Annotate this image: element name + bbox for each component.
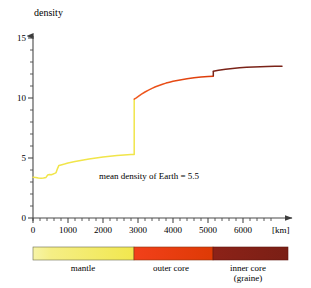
density-profile-chart: density 15 10 5 0 0 1000 2000 3000 4000 … — [0, 0, 311, 288]
x-tick-label-5000: 5000 — [188, 226, 228, 235]
x-axis — [33, 218, 292, 223]
x-axis-major-ticks — [33, 218, 243, 223]
y-tick-label-10: 10 — [10, 94, 26, 103]
x-tick-label-2000: 2000 — [83, 226, 123, 235]
chart-canvas — [0, 0, 311, 288]
curve-inner-core — [213, 66, 282, 71]
legend-label-inner-core: inner core (graine) — [208, 263, 288, 284]
y-tick-label-15: 15 — [10, 34, 26, 43]
y-axis-major-ticks — [28, 38, 33, 218]
mean-density-annotation: mean density of Earth = 5.5 — [99, 172, 199, 181]
legend-label-outer-core: outer core — [133, 263, 209, 273]
x-tick-label-1000: 1000 — [48, 226, 88, 235]
y-axis-title: density — [34, 8, 63, 18]
legend-label-mantle: mantle — [43, 263, 123, 273]
legend-segment-mantle — [33, 247, 134, 260]
legend-label-inner-core-line1: inner core — [230, 263, 266, 273]
y-tick-label-5: 5 — [10, 154, 26, 163]
legend-segment-inner-core — [213, 247, 288, 260]
x-tick-label-6000: 6000 — [223, 226, 263, 235]
legend-color-bar — [33, 247, 288, 260]
curve-outer-core — [134, 76, 213, 99]
x-tick-label-3000: 3000 — [118, 226, 158, 235]
legend-label-inner-core-line2: (graine) — [234, 273, 262, 283]
y-tick-label-0: 0 — [10, 214, 26, 223]
legend-segment-outer-core — [134, 247, 213, 260]
x-tick-label-4000: 4000 — [153, 226, 193, 235]
y-axis — [28, 36, 33, 221]
x-tick-label-0: 0 — [13, 226, 53, 235]
x-axis-unit-label: [km] — [272, 226, 290, 235]
